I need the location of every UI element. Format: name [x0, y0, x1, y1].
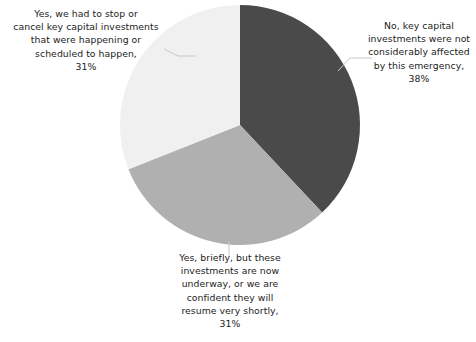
pie-label-yes-stopped-or-cancelled: Yes, we had to stop or cancel key capita…	[0, 7, 172, 73]
pie-label-no-not-affected: No, key capital investments were not con…	[362, 19, 476, 85]
pie-label-yes-briefly-resuming: Yes, briefly, but these investments are …	[152, 251, 308, 330]
pie-chart-figure: Yes, we had to stop or cancel key capita…	[0, 0, 476, 342]
